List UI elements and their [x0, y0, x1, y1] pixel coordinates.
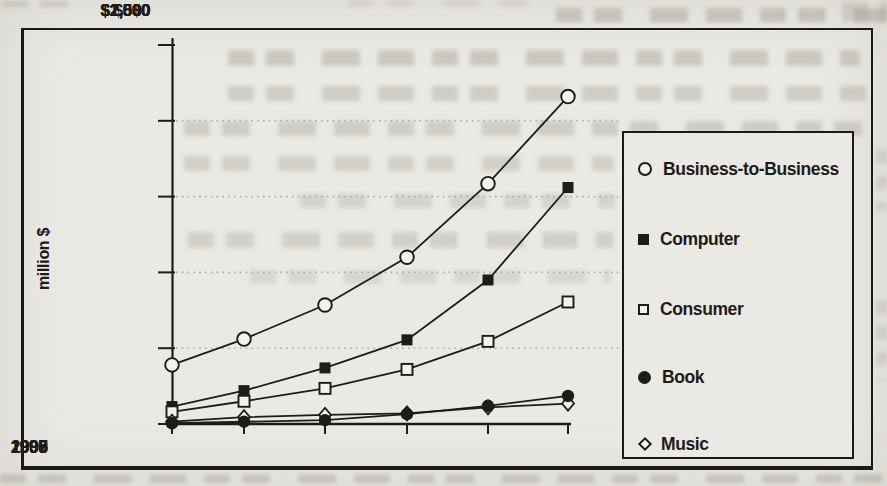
legend-item: Music	[638, 432, 709, 456]
scanned-page: $2,500 $2,000 $1,500 $1,000 $500 $0 1995…	[0, 0, 887, 486]
legend-label: Music	[661, 434, 709, 455]
legend-filled-circle-icon	[638, 371, 651, 384]
legend-open-square-icon	[638, 304, 649, 315]
legend-item: Book	[638, 365, 704, 389]
legend-item: Computer	[638, 227, 739, 251]
legend-item: Business-to-Business	[638, 157, 839, 181]
x-axis-tick-label: 2000	[0, 436, 58, 458]
legend-label: Book	[662, 367, 704, 388]
legend-item: Consumer	[638, 297, 743, 321]
legend-filled-square-icon	[638, 234, 649, 245]
legend-open-circle-icon	[638, 162, 652, 176]
y-axis-title: million $	[35, 209, 55, 309]
legend: Business-to-Business Computer Consumer B…	[622, 131, 854, 459]
y-axis-tick-label: $0	[38, 0, 150, 22]
legend-label: Business-to-Business	[663, 159, 839, 180]
legend-label: Consumer	[660, 299, 743, 320]
legend-label: Computer	[660, 229, 739, 250]
legend-open-diamond-icon	[638, 437, 652, 451]
